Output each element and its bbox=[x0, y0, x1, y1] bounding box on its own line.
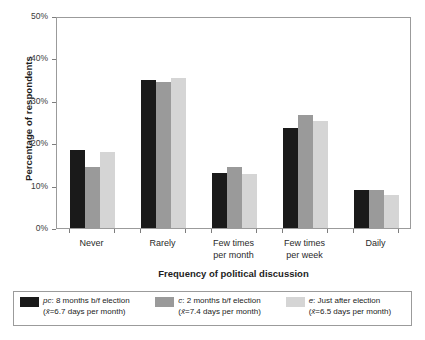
x-axis-tick-mark bbox=[282, 229, 283, 233]
category-label-line: per week bbox=[259, 250, 351, 262]
y-axis-tick-label: 20% bbox=[31, 138, 48, 148]
legend-label: pc: 8 months b/f election(x̄=6.7 days pe… bbox=[43, 295, 130, 317]
chart-legend: pc: 8 months b/f election(x̄=6.7 days pe… bbox=[13, 291, 412, 326]
legend-label: c: 2 months b/f election(x̄=7.4 days per… bbox=[178, 295, 261, 317]
legend-swatch-pc bbox=[20, 297, 39, 307]
x-axis-tick-mark bbox=[398, 229, 399, 233]
legend-mean-line: (x̄=6.5 days per month) bbox=[309, 306, 392, 317]
bar-group bbox=[70, 18, 115, 228]
y-axis-tick-label: 0% bbox=[36, 223, 48, 233]
bar[interactable] bbox=[298, 115, 313, 228]
legend-item[interactable]: pc: 8 months b/f election(x̄=6.7 days pe… bbox=[14, 295, 153, 317]
bar[interactable] bbox=[156, 82, 171, 228]
y-axis-tick-label: 40% bbox=[31, 53, 48, 63]
x-axis-category-label: Daily bbox=[330, 238, 422, 250]
bar[interactable] bbox=[283, 128, 298, 228]
legend-series-description: : 2 months b/f election bbox=[182, 296, 260, 305]
y-axis-tick-label: 50% bbox=[31, 11, 48, 21]
bar[interactable] bbox=[369, 190, 384, 228]
bar[interactable] bbox=[227, 167, 242, 228]
legend-mean-value: =6.5 days per month) bbox=[315, 307, 391, 316]
x-axis-tick-mark bbox=[327, 229, 328, 233]
legend-label: e: Just after election(x̄=6.5 days per m… bbox=[309, 295, 392, 317]
y-axis-tick-label: 10% bbox=[31, 181, 48, 191]
x-axis-tick-mark bbox=[353, 229, 354, 233]
plot-area bbox=[56, 17, 411, 229]
legend-swatch-c bbox=[155, 297, 174, 307]
legend-mean-value: =7.4 days per month) bbox=[185, 307, 261, 316]
bar[interactable] bbox=[313, 121, 328, 228]
x-axis-tick-mark bbox=[185, 229, 186, 233]
legend-label-line1: c: 2 months b/f election bbox=[178, 296, 260, 305]
bar-chart-figure: Percentage of respondents 0%10%20%30%40%… bbox=[0, 0, 425, 340]
legend-mean-line: (x̄=6.7 days per month) bbox=[43, 306, 130, 317]
y-axis-tick-mark bbox=[52, 229, 56, 230]
bar-group bbox=[283, 18, 328, 228]
legend-mean-line: (x̄=7.4 days per month) bbox=[178, 306, 261, 317]
bar[interactable] bbox=[85, 167, 100, 228]
category-label-line: Daily bbox=[330, 238, 422, 250]
bar[interactable] bbox=[171, 78, 186, 228]
bar[interactable] bbox=[354, 190, 369, 228]
bar[interactable] bbox=[212, 173, 227, 228]
x-axis-tick-mark bbox=[211, 229, 212, 233]
bar-group bbox=[141, 18, 186, 228]
bar-group bbox=[354, 18, 399, 228]
legend-item[interactable]: e: Just after election(x̄=6.5 days per m… bbox=[284, 295, 411, 317]
bar[interactable] bbox=[100, 152, 115, 228]
bar[interactable] bbox=[242, 174, 257, 228]
bar[interactable] bbox=[141, 80, 156, 228]
bar[interactable] bbox=[384, 195, 399, 228]
y-axis-tick-label: 30% bbox=[31, 96, 48, 106]
legend-swatch-e bbox=[286, 297, 305, 307]
x-axis-tick-mark bbox=[114, 229, 115, 233]
x-axis-tick-mark bbox=[140, 229, 141, 233]
legend-label-line1: pc: 8 months b/f election bbox=[43, 296, 130, 305]
legend-series-description: : Just after election bbox=[313, 296, 380, 305]
x-axis-tick-mark bbox=[256, 229, 257, 233]
legend-series-description: : 8 months b/f election bbox=[51, 296, 129, 305]
x-axis-tick-mark bbox=[69, 229, 70, 233]
bar-group bbox=[212, 18, 257, 228]
bar[interactable] bbox=[70, 150, 85, 228]
legend-label-line1: e: Just after election bbox=[309, 296, 381, 305]
legend-mean-value: =6.7 days per month) bbox=[50, 307, 126, 316]
x-axis-title: Frequency of political discussion bbox=[56, 268, 411, 279]
legend-item[interactable]: c: 2 months b/f election(x̄=7.4 days per… bbox=[153, 295, 283, 317]
